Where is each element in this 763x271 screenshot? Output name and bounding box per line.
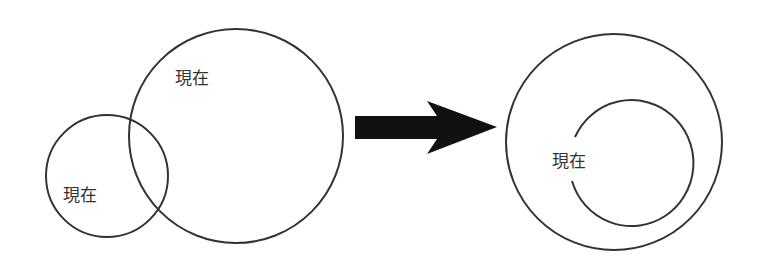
transition-arrow-icon: [355, 101, 497, 154]
diagram-canvas: [0, 0, 763, 271]
after-inner-arc: [572, 100, 693, 226]
before-large-circle-label: 現在: [175, 68, 209, 88]
before-small-circle: [46, 115, 168, 237]
before-small-circle-label: 現在: [63, 185, 97, 205]
before-large-circle: [129, 29, 343, 243]
after-inner-arc-label: 現在: [552, 151, 586, 171]
